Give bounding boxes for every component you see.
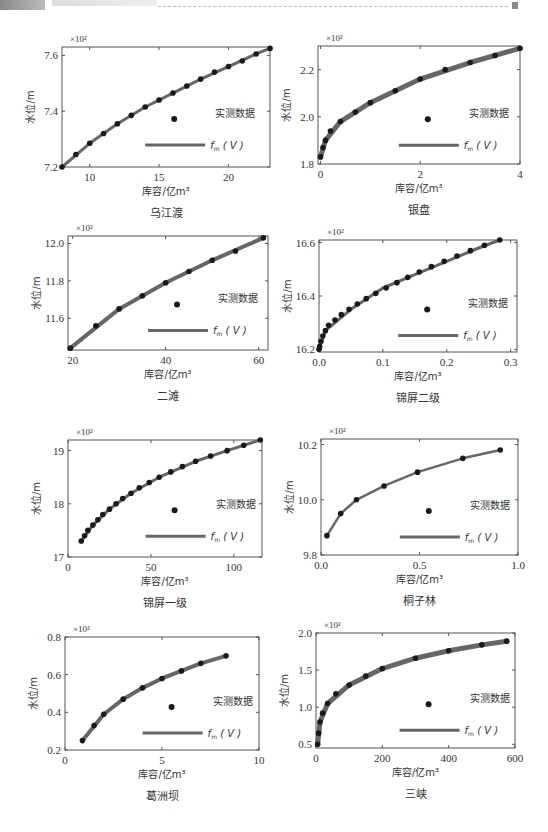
data-point <box>73 152 79 158</box>
data-point <box>429 264 435 270</box>
chart-panel-7: 05100.20.40.60.8×10²库容/亿m³水位/m葛洲坝实测数据fm … <box>27 624 265 803</box>
y-tick-label: 1.8 <box>300 158 314 170</box>
y-axis-label: 水位/m <box>27 677 39 710</box>
data-point <box>100 512 106 518</box>
x-tick-label: 200 <box>374 752 391 764</box>
y-tick-label: 10.2 <box>298 439 317 451</box>
x-tick-label: 1.0 <box>511 559 525 571</box>
y-tick-label: 9.8 <box>303 549 317 561</box>
x-tick-label: 400 <box>440 752 457 764</box>
data-point <box>416 269 422 275</box>
data-point <box>156 97 162 103</box>
y-tick-label: 11.6 <box>45 312 64 324</box>
data-point <box>267 46 273 52</box>
y-tick-label: 12.0 <box>45 237 65 249</box>
x-axis-label: 库容/亿m³ <box>144 368 191 380</box>
data-point <box>326 323 332 329</box>
x-tick-label: 0 <box>318 168 324 180</box>
data-point <box>332 317 338 323</box>
data-point <box>492 53 498 59</box>
legend-points-label: 实测数据 <box>469 107 509 119</box>
y-axis-label: 水位/m <box>278 674 290 707</box>
y-multiplier: ×10² <box>76 223 93 233</box>
y-tick-label: 2.0 <box>300 111 314 123</box>
y-tick-label: 18 <box>53 498 65 510</box>
legend-points-label: 实测数据 <box>468 297 508 309</box>
x-tick-label: 4 <box>517 168 523 180</box>
data-point <box>460 456 466 462</box>
chart-panel-5: 050100171819×10²库容/亿m³水位/m锦屏一级实测数据fm ( V… <box>30 427 263 610</box>
data-point <box>338 511 344 517</box>
x-tick-label: 50 <box>145 561 157 573</box>
data-point <box>354 497 360 503</box>
data-point <box>120 696 126 702</box>
data-point <box>318 339 324 345</box>
legend-line-label: fm ( V ) <box>208 728 242 740</box>
data-point <box>224 448 230 454</box>
data-point <box>373 291 379 297</box>
data-point <box>417 76 423 82</box>
data-point <box>209 257 215 263</box>
y-tick-label: 0.6 <box>47 669 61 681</box>
data-point <box>82 533 88 539</box>
data-point <box>253 51 259 57</box>
data-point <box>136 485 142 491</box>
chart-panel-4: 0.00.10.20.316.216.416.6×10²库容/亿m³水位/m锦屏… <box>281 227 518 405</box>
data-point <box>381 483 387 489</box>
x-axis-label: 库容/亿m³ <box>394 370 441 382</box>
data-point <box>261 235 267 241</box>
data-point <box>170 90 176 96</box>
y-tick-label: 2.0 <box>298 627 312 639</box>
legend-line-label: fm ( V ) <box>463 330 497 342</box>
y-multiplier: ×10² <box>324 620 341 630</box>
legend-line-label: fm ( V ) <box>465 725 499 737</box>
data-point <box>78 538 84 544</box>
chart-panel-8: 02004006000.51.01.52.0×10²库容/亿m³水位/m三峡实测… <box>278 620 524 801</box>
y-multiplier: ×10² <box>329 426 346 436</box>
x-tick-label: 0 <box>313 752 319 764</box>
data-point <box>101 711 107 717</box>
x-axis-label: 库容/亿m³ <box>395 182 442 194</box>
legend-points-label: 实测数据 <box>218 292 258 304</box>
data-point <box>113 501 119 507</box>
y-multiplier: ×10² <box>326 33 343 43</box>
x-tick-label: 0.5 <box>413 559 427 571</box>
data-point <box>497 237 503 243</box>
data-point <box>504 638 510 644</box>
chart-caption: 葛洲坝 <box>146 789 179 803</box>
data-point <box>95 517 101 523</box>
legend-points-label: 实测数据 <box>213 695 253 707</box>
x-tick-label: 100 <box>226 561 243 573</box>
chart-caption: 锦屏二级 <box>396 391 440 405</box>
data-point <box>128 490 134 496</box>
data-point <box>140 293 146 299</box>
data-point <box>320 710 326 716</box>
data-point <box>413 655 419 661</box>
legend-line-label: fm ( V ) <box>211 531 245 543</box>
y-multiplier: ×10² <box>76 427 93 437</box>
data-point <box>323 138 329 144</box>
data-point <box>107 506 113 512</box>
fit-curve <box>81 440 260 541</box>
data-point <box>186 269 192 275</box>
x-tick-label: 600 <box>507 752 524 764</box>
fit-curve <box>327 450 500 536</box>
data-point <box>323 328 329 334</box>
legend-line-label: fm ( V ) <box>465 532 499 544</box>
chart-panel-2: 0241.82.02.2×10²库容/亿m³水位/m银盘实测数据fm ( V ) <box>280 33 523 217</box>
x-tick-label: 0.1 <box>376 356 390 368</box>
data-point <box>394 280 400 286</box>
data-point <box>223 653 229 659</box>
data-point <box>208 453 214 459</box>
x-tick-label: 15 <box>154 171 166 183</box>
data-point <box>383 285 389 291</box>
x-tick-label: 10 <box>84 171 96 183</box>
fit-curve <box>82 656 226 741</box>
y-tick-label: 16.6 <box>296 237 316 249</box>
data-point <box>163 280 169 286</box>
x-tick-label: 0.3 <box>504 356 518 368</box>
y-axis-label: 水位/m <box>281 279 293 312</box>
y-tick-label: 16.4 <box>296 290 316 302</box>
y-tick-label: 1.0 <box>298 701 312 713</box>
data-point <box>355 301 361 307</box>
